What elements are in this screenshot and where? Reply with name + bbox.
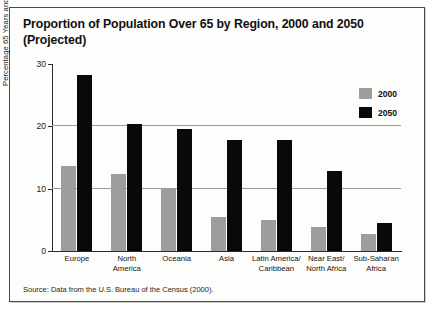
bar-2000 [311, 227, 326, 251]
legend-item-2050: 2050 [359, 107, 421, 118]
bar-2000 [161, 189, 176, 251]
bar-2050 [127, 124, 142, 251]
bar-2000 [261, 220, 276, 251]
bar-group: Europe [52, 64, 102, 251]
bar-2050 [327, 171, 342, 251]
x-axis-category-label-line: Sub-Saharan [339, 254, 413, 264]
y-axis-tick-label: 10 [24, 184, 46, 194]
y-axis-tick-label: 30 [24, 59, 46, 69]
legend-item-2000: 2000 [359, 88, 421, 99]
bar-group: Near East/North Africa [301, 64, 351, 251]
legend-swatch-2050 [359, 107, 372, 118]
bar-group: Asia [202, 64, 252, 251]
plot-area: EuropeNorthAmericaOceaniaAsiaLatin Ameri… [52, 64, 401, 251]
bar-2000 [211, 217, 226, 251]
bar-2050 [177, 129, 192, 251]
figure-frame: Proportion of Population Over 65 by Regi… [9, 7, 425, 302]
bar-2000 [361, 234, 376, 251]
bar-group: Oceania [152, 64, 202, 251]
x-axis-category-label: Sub-SaharanAfrica [339, 254, 413, 273]
bar-2050 [277, 140, 292, 251]
legend-swatch-2000 [359, 88, 372, 99]
chart-legend: 20002050 [359, 88, 421, 126]
y-axis-title: Percentage 65 Years and Older [1, 0, 10, 86]
x-axis-line [52, 251, 402, 252]
source-note: Source: Data from the U.S. Bureau of the… [23, 285, 214, 294]
bar-2000 [111, 174, 126, 251]
y-axis-tick-label: 20 [24, 121, 46, 131]
chart-title: Proportion of Population Over 65 by Regi… [23, 17, 405, 48]
bar-2050 [227, 140, 242, 251]
bar-group: Latin America/Caribbean [251, 64, 301, 251]
legend-label-2000: 2000 [378, 89, 397, 99]
bar-2000 [61, 166, 76, 251]
legend-label-2050: 2050 [378, 108, 397, 118]
bar-2050 [77, 75, 92, 251]
bar-2050 [377, 223, 392, 251]
bar-group: NorthAmerica [102, 64, 152, 251]
x-axis-category-label-line: America [90, 264, 164, 274]
x-axis-category-label-line: Africa [339, 264, 413, 274]
